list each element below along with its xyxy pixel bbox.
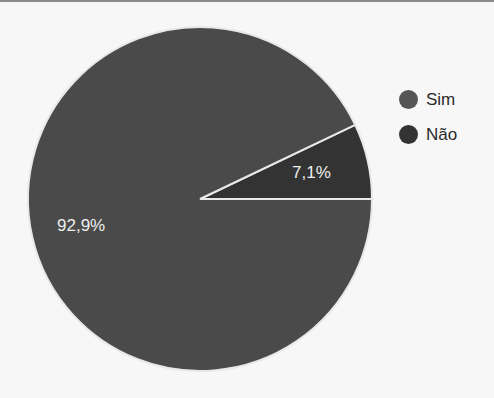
legend: Sim Não xyxy=(399,82,457,152)
legend-item-sim[interactable]: Sim xyxy=(399,82,457,117)
legend-label: Sim xyxy=(426,90,455,110)
legend-dot-icon xyxy=(399,90,418,109)
legend-dot-icon xyxy=(399,125,418,144)
pie-chart xyxy=(0,0,494,398)
legend-label: Não xyxy=(426,125,457,145)
pie-slice-sim[interactable] xyxy=(28,27,372,371)
legend-item-nao[interactable]: Não xyxy=(399,117,457,152)
slice-label-sim: 92,9% xyxy=(57,216,105,236)
slice-label-nao: 7,1% xyxy=(292,163,331,183)
